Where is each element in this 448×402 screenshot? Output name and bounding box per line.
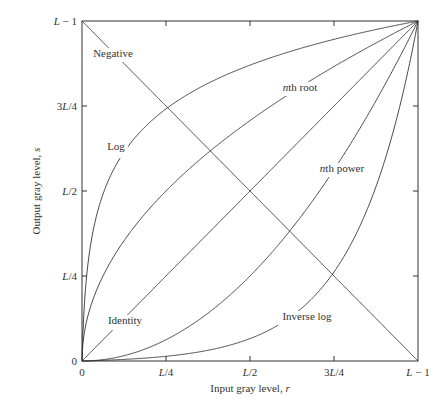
x-tick-label: L/2 bbox=[242, 366, 258, 378]
x-axis-title: Input gray level, r bbox=[210, 382, 290, 394]
label-log: Log bbox=[107, 140, 125, 152]
x-tick-label: L/4 bbox=[158, 366, 174, 378]
label-negative: Negative bbox=[93, 47, 133, 59]
x-tick-label: 3L/4 bbox=[324, 366, 345, 378]
label-inverse-log: Inverse log bbox=[282, 310, 332, 322]
y-tick-label: L − 1 bbox=[53, 15, 77, 27]
y-tick-label: L/4 bbox=[61, 270, 77, 282]
y-tick-label: 0 bbox=[72, 355, 78, 367]
x-tick-label: L − 1 bbox=[405, 366, 429, 378]
y-tick-label: L/2 bbox=[61, 185, 77, 197]
curves-group bbox=[82, 21, 418, 361]
labels-group: NegativeLognth rootnth powerIdentityInve… bbox=[93, 47, 364, 326]
x-tick-label: 0 bbox=[79, 366, 85, 378]
label-nth-power: nth power bbox=[320, 162, 365, 174]
y-tick-label: 3L/4 bbox=[57, 100, 78, 112]
label-identity: Identity bbox=[108, 314, 143, 326]
label-nth-root: nth root bbox=[283, 81, 318, 93]
y-axis-title: Output gray level, s bbox=[30, 148, 42, 235]
gray-level-transformations-chart: 0L/4L/23L/4L − 10L/4L/23L/4L − 1 Negativ… bbox=[0, 0, 448, 402]
